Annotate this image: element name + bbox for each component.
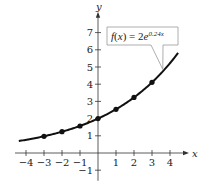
data-point (113, 107, 118, 112)
x-tick-label: 1 (113, 157, 119, 168)
x-tick-label: −2 (55, 157, 70, 168)
x-axis-label: x (192, 148, 198, 159)
data-point (131, 95, 136, 100)
y-axis-label: y (95, 1, 102, 12)
function-graph: −4−3−2−11234−11234567 f(x) = 2e0.24x x y (0, 0, 205, 183)
data-point (149, 80, 154, 85)
y-tick-label: 3 (87, 96, 93, 107)
data-point (59, 129, 64, 134)
y-tick-label: −1 (78, 165, 93, 176)
data-point (41, 134, 46, 139)
data-point (95, 116, 100, 121)
x-tick-label: −4 (19, 157, 34, 168)
y-tick-label: 4 (87, 79, 93, 90)
y-tick-label: 6 (87, 44, 93, 55)
x-tick-label: 4 (167, 157, 173, 168)
x-tick-label: −3 (37, 157, 52, 168)
y-tick-label: 1 (87, 130, 93, 141)
function-label-callout: f(x) = 2e0.24x (107, 27, 178, 69)
exponential-curve (19, 53, 178, 141)
x-tick-label: 2 (131, 157, 137, 168)
y-tick-label: 7 (87, 27, 93, 38)
x-tick-label: 3 (149, 157, 155, 168)
data-point (77, 123, 82, 128)
y-tick-label: 5 (87, 62, 93, 73)
